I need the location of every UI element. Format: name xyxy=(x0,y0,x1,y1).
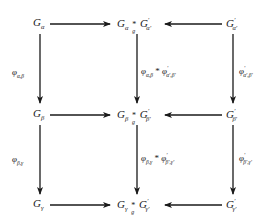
free-product-operator: *g xyxy=(130,202,136,210)
node-free-product-alpha: Gα *g G′α′ xyxy=(117,17,151,31)
label-phi-prime-beta-gamma: φ′β′,γ′ xyxy=(239,153,252,165)
node-g-alpha: Gα xyxy=(33,17,44,31)
node-g-prime-beta: G′β′ xyxy=(226,108,237,122)
node-free-product-gamma: Gγ *g G′γ′ xyxy=(117,198,149,212)
node-g-gamma: Gγ xyxy=(33,198,44,212)
node-g-prime-alpha: G′α′ xyxy=(226,17,237,31)
free-product-operator: *g xyxy=(131,112,137,120)
label-phi-alpha-beta: φα,β xyxy=(12,68,24,79)
label-phi-star-phi-prime-top: φα,β * φ′α′,β′ xyxy=(141,66,176,78)
free-product-operator: *g xyxy=(131,21,137,29)
label-phi-prime-alpha-beta: φ′α′,β′ xyxy=(239,66,253,78)
node-g-prime-gamma: G′γ′ xyxy=(226,198,236,212)
node-free-product-beta: Gβ *g G′β′ xyxy=(117,108,151,122)
node-g-beta: Gβ xyxy=(33,108,44,122)
label-phi-beta-gamma: φβ,γ xyxy=(12,155,23,166)
label-phi-star-phi-prime-bottom: φβ,γ * φ′β′,γ′ xyxy=(141,153,174,165)
